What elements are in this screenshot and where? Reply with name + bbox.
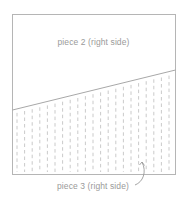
seam-line [13, 70, 176, 110]
arrowhead-icon [140, 162, 145, 166]
piece-3-label: piece 3 (right side) [57, 181, 129, 191]
piece-2-label: piece 2 (right side) [0, 37, 187, 47]
pointer-arrow [135, 162, 144, 185]
quilt-block-diagram [0, 0, 187, 203]
